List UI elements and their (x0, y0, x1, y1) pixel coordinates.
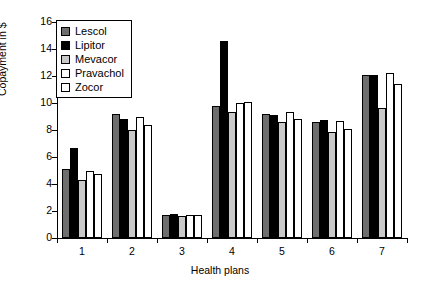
legend-swatch-icon (61, 55, 70, 64)
legend-swatch-icon (61, 27, 70, 36)
y-tick-label: 12 (0, 70, 52, 81)
legend: LescolLipitorMevacorPravacholZocor (56, 20, 132, 98)
x-tick-label: 3 (179, 246, 185, 257)
bar-zocor-plan-1 (94, 174, 102, 238)
bar-pravachol-plan-3 (186, 215, 194, 238)
bar-pravachol-plan-5 (286, 112, 294, 238)
bar-lescol-plan-5 (262, 114, 270, 238)
y-tick-label: 4 (0, 178, 52, 189)
bar-lipitor-plan-1 (70, 148, 78, 238)
bar-mevacor-plan-7 (378, 108, 386, 238)
bar-lescol-plan-6 (312, 122, 320, 238)
y-tick-label: 14 (0, 43, 52, 54)
legend-item-label: Mevacor (75, 54, 117, 65)
bar-lipitor-plan-3 (170, 214, 178, 238)
bar-lescol-plan-2 (112, 114, 120, 238)
x-tick-label: 5 (279, 246, 285, 257)
legend-item-lescol: Lescol (61, 24, 124, 38)
legend-swatch-icon (61, 83, 70, 92)
bar-lescol-plan-1 (62, 169, 70, 238)
x-tick (407, 238, 408, 243)
legend-item-label: Zocor (75, 82, 103, 93)
bar-mevacor-plan-1 (78, 180, 86, 238)
x-tick-label: 7 (379, 246, 385, 257)
legend-item-mevacor: Mevacor (61, 52, 124, 66)
bar-zocor-plan-5 (294, 119, 302, 238)
bar-zocor-plan-4 (244, 102, 252, 238)
x-tick-label: 2 (129, 246, 135, 257)
bar-mevacor-plan-5 (278, 122, 286, 238)
x-tick-label: 1 (79, 246, 85, 257)
x-tick (157, 238, 158, 243)
bar-chart: Copayment in $ 0246810121416 1234567 Hea… (0, 0, 440, 291)
x-axis-line (57, 238, 407, 239)
bar-pravachol-plan-6 (336, 121, 344, 238)
x-tick-label: 6 (329, 246, 335, 257)
bar-pravachol-plan-7 (386, 73, 394, 238)
legend-item-label: Lipitor (75, 40, 105, 51)
bar-mevacor-plan-3 (178, 216, 186, 238)
y-tick-label: 0 (0, 232, 52, 243)
y-tick-label: 10 (0, 97, 52, 108)
bar-lipitor-plan-7 (370, 75, 378, 238)
bar-pravachol-plan-2 (136, 117, 144, 238)
bar-zocor-plan-6 (344, 129, 352, 238)
x-tick (257, 238, 258, 243)
y-tick-label: 8 (0, 124, 52, 135)
bar-mevacor-plan-2 (128, 130, 136, 238)
legend-item-pravachol: Pravachol (61, 66, 124, 80)
bar-pravachol-plan-4 (236, 103, 244, 238)
bar-mevacor-plan-4 (228, 112, 236, 238)
x-tick-label: 4 (229, 246, 235, 257)
legend-swatch-icon (61, 69, 70, 78)
bar-lipitor-plan-2 (120, 119, 128, 238)
bar-mevacor-plan-6 (328, 132, 336, 238)
bar-lipitor-plan-6 (320, 120, 328, 238)
legend-swatch-icon (61, 41, 70, 50)
legend-item-lipitor: Lipitor (61, 38, 124, 52)
y-tick-label: 6 (0, 151, 52, 162)
bar-lipitor-plan-4 (220, 41, 228, 238)
bar-pravachol-plan-1 (86, 171, 94, 239)
x-tick (57, 238, 58, 243)
x-tick (207, 238, 208, 243)
y-tick-label: 2 (0, 205, 52, 216)
x-tick (307, 238, 308, 243)
bar-zocor-plan-2 (144, 125, 152, 238)
bar-lescol-plan-3 (162, 215, 170, 238)
x-axis-title: Health plans (0, 264, 440, 276)
bar-lescol-plan-7 (362, 75, 370, 238)
y-axis-title: Copayment in $ (0, 22, 8, 96)
legend-item-label: Pravachol (75, 68, 124, 79)
y-tick-label: 16 (0, 16, 52, 27)
x-tick (107, 238, 108, 243)
legend-item-zocor: Zocor (61, 80, 124, 94)
bar-zocor-plan-7 (394, 84, 402, 238)
x-tick (357, 238, 358, 243)
legend-item-label: Lescol (75, 26, 107, 37)
bar-lipitor-plan-5 (270, 115, 278, 238)
bar-lescol-plan-4 (212, 106, 220, 238)
bar-zocor-plan-3 (194, 215, 202, 238)
